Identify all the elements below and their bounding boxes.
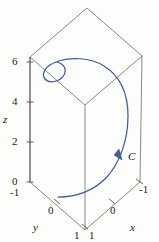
x-tick-label-1: 1 <box>89 230 95 241</box>
z-tick-label-2: 2 <box>12 136 18 147</box>
z-tick-label-4: 4 <box>12 96 18 107</box>
plot-figure: 6 4 2 0 z -1 0 1 y 1 0 -1 x C <box>0 0 159 242</box>
y-tick-label-0: 0 <box>48 205 54 216</box>
z-axis-label: z <box>3 114 7 125</box>
box-edge-right-vertical <box>140 56 142 182</box>
y-axis-label: y <box>33 222 38 233</box>
x-axis-label: x <box>130 222 135 233</box>
y-tick-label-1: 1 <box>74 230 80 241</box>
y-axis <box>54 199 88 229</box>
x-tick-label-minus1: -1 <box>139 184 148 195</box>
box-top-face <box>30 8 142 105</box>
plot-canvas <box>0 0 159 242</box>
curve-direction-arrow-icon <box>114 149 122 160</box>
y-tick-label-minus1: -1 <box>10 187 19 198</box>
curve-c-label: C <box>128 151 135 162</box>
curve-arrowhead <box>114 149 122 160</box>
x-axis <box>109 179 143 204</box>
bounding-box <box>30 8 142 230</box>
z-axis <box>27 57 34 183</box>
box-edge-bottom-left <box>30 182 85 230</box>
z-tick-label-6: 6 <box>12 56 18 67</box>
x-tick-label-0: 0 <box>110 205 116 216</box>
